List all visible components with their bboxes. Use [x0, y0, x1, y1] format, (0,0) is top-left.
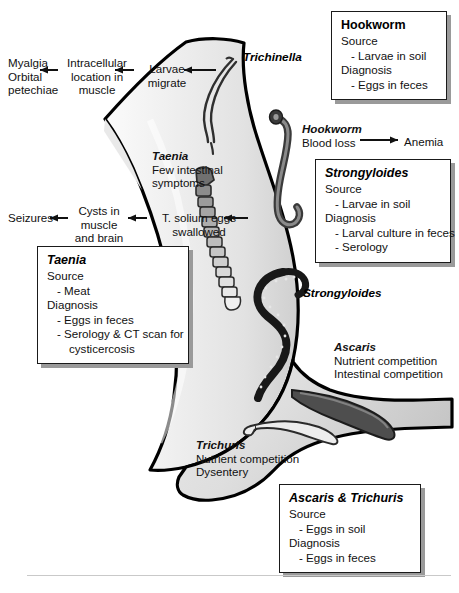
info-box-strongyloides-line-0: Source — [325, 182, 442, 197]
trichinella-outcome-line1: Myalgia — [8, 56, 48, 69]
trichuris-note: Trichuris Nutrient competition Dysentery — [196, 438, 299, 479]
info-box-ascaris-trichuris-line-2: Diagnosis — [289, 536, 412, 551]
info-box-hookworm: Hookworm Source - Larvae in soil Diagnos… — [331, 11, 447, 100]
trichinella-step2-line3: muscle — [79, 83, 116, 96]
info-box-hookworm-line-3: - Eggs in feces — [341, 78, 438, 93]
taenia-step2-line2: muscle — [81, 218, 118, 231]
info-box-strongyloides-title: Strongyloides — [325, 166, 442, 181]
taenia-step2: Cysts in muscle and brain — [71, 204, 127, 245]
info-box-taenia-line-4: - Serology & CT scan for — [47, 327, 180, 342]
trichinella-step1: Larvae migrate — [139, 62, 195, 89]
trichuris-note-line2: Dysentery — [196, 465, 248, 478]
hookworm-worm — [270, 110, 300, 225]
taenia-step1-line2: swallowed — [172, 225, 226, 238]
info-box-ascaris-trichuris-line-3: - Eggs in feces — [289, 551, 412, 566]
info-box-ascaris-trichuris: Ascaris & Trichuris Source - Eggs in soi… — [279, 484, 421, 573]
info-box-ascaris-trichuris-line-0: Source — [289, 507, 412, 522]
hookworm-note-effect: Anemia — [404, 135, 443, 148]
taenia-note-line1: Few intestinal — [152, 163, 223, 176]
trichinella-step2: Intracellular location in muscle — [62, 56, 132, 97]
trichinella-step1-line2: migrate — [148, 76, 187, 89]
trichinella-step1-line1: Larvae — [149, 62, 184, 75]
trichinella-outcome-line2: Orbital — [8, 70, 42, 83]
hookworm-effect: Anemia — [404, 135, 443, 149]
info-box-strongyloides-line-4: - Serology — [325, 240, 442, 255]
info-box-hookworm-line-0: Source — [341, 34, 438, 49]
info-box-hookworm-line-1: - Larvae in soil — [341, 49, 438, 64]
hookworm-note-cause: Blood loss — [302, 136, 356, 149]
taenia-note-line2: symptoms — [152, 176, 205, 189]
taenia-note: Taenia Few intestinal symptoms — [152, 149, 223, 190]
trichinella-outcome-line3: petechiae — [8, 83, 58, 96]
ascaris-note-line2: Intestinal competition — [334, 367, 443, 380]
hookworm-note: Hookworm Blood loss — [302, 122, 362, 149]
info-box-ascaris-trichuris-title: Ascaris & Trichuris — [289, 491, 412, 506]
taenia-step1: T. solium eggs swallowed — [150, 211, 248, 238]
trichinella-step2-line2: location in — [71, 70, 123, 83]
label-trichinella: Trichinella — [243, 50, 302, 64]
ascaris-note: Ascaris Nutrient competition Intestinal … — [334, 340, 443, 381]
info-box-taenia: Taenia Source - Meat Diagnosis - Eggs in… — [37, 246, 189, 364]
info-box-strongyloides-line-3: - Larval culture in feces — [325, 226, 442, 241]
trichinella-outcome: Myalgia Orbital petechiae — [8, 56, 58, 97]
info-box-taenia-line-3: - Eggs in feces — [47, 313, 180, 328]
trichuris-note-line1: Nutrient competition — [196, 452, 299, 465]
info-box-strongyloides-line-2: Diagnosis — [325, 211, 442, 226]
ascaris-note-genus: Ascaris — [334, 340, 443, 354]
taenia-step1-line1: T. solium eggs — [162, 211, 236, 224]
hookworm-note-genus: Hookworm — [302, 122, 362, 136]
info-box-taenia-line-0: Source — [47, 269, 180, 284]
taenia-outcome-label: Seizures — [8, 211, 53, 224]
info-box-taenia-line-5: cysticercosis — [47, 342, 180, 357]
footer-divider — [27, 575, 451, 576]
helminth-diagram-figure: Myalgia Orbital petechiae Intracellular … — [0, 0, 459, 593]
taenia-note-genus: Taenia — [152, 149, 223, 163]
info-box-taenia-title: Taenia — [47, 253, 180, 268]
ascaris-note-line1: Nutrient competition — [334, 354, 437, 367]
label-strongyloides: Strongyloides — [303, 286, 382, 300]
info-box-ascaris-trichuris-line-1: - Eggs in soil — [289, 522, 412, 537]
info-box-taenia-line-1: - Meat — [47, 284, 180, 299]
info-box-strongyloides-line-1: - Larvae in soil — [325, 197, 442, 212]
taenia-outcome: Seizures — [8, 211, 53, 225]
trichinella-step2-line1: Intracellular — [67, 56, 127, 69]
info-box-hookworm-title: Hookworm — [341, 18, 438, 33]
info-box-taenia-line-2: Diagnosis — [47, 298, 180, 313]
info-box-hookworm-line-2: Diagnosis — [341, 63, 438, 78]
info-box-strongyloides: Strongyloides Source - Larvae in soil Di… — [315, 159, 451, 263]
taenia-step2-line3: and brain — [75, 231, 123, 244]
taenia-step2-line1: Cysts in — [78, 204, 119, 217]
trichuris-note-genus: Trichuris — [196, 438, 299, 452]
